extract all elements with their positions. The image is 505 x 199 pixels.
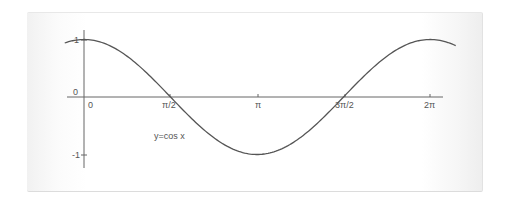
curve-label: y=cos x (154, 131, 185, 141)
cosine-chart: 0 π/2 π 3π/2 2π 1 0 -1 y=cos x (0, 0, 505, 199)
x-label-0: 0 (88, 100, 93, 110)
y-label-0: 0 (73, 87, 78, 97)
x-label-3pi-2: 3π/2 (335, 100, 354, 110)
x-label-pi-2: π/2 (162, 100, 176, 110)
x-label-2pi: 2π (424, 100, 435, 110)
y-label-m1: -1 (72, 150, 80, 160)
y-label-1: 1 (74, 35, 79, 45)
x-label-pi: π (255, 100, 261, 110)
